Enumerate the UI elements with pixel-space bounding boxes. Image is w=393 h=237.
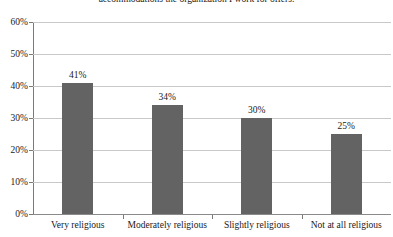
x-axis-label: Slightly religious <box>212 220 302 231</box>
y-axis-label: 20% <box>0 145 28 155</box>
x-axis-tick <box>123 215 124 219</box>
x-axis-label: Not at all religious <box>302 220 392 231</box>
bar <box>62 83 93 214</box>
bar-value-label: 41% <box>33 70 123 80</box>
y-axis-tick <box>29 214 33 215</box>
y-axis-label: 40% <box>0 81 28 91</box>
bar-value-label: 30% <box>212 105 302 115</box>
x-axis-label: Very religious <box>33 220 123 231</box>
bar-chart: accommodations the organization I work f… <box>0 0 393 237</box>
chart-title: accommodations the organization I work f… <box>0 0 393 5</box>
y-axis-label: 50% <box>0 49 28 59</box>
y-axis-label: 60% <box>0 17 28 27</box>
y-axis-label: 30% <box>0 113 28 123</box>
y-axis-label: 10% <box>0 177 28 187</box>
x-axis-tick <box>302 215 303 219</box>
plot-area <box>33 22 391 214</box>
x-axis-tick <box>212 215 213 219</box>
bar-value-label: 25% <box>302 121 392 131</box>
x-axis-label: Moderately religious <box>123 220 213 231</box>
bar <box>152 105 183 214</box>
bar <box>241 118 272 214</box>
bar <box>331 134 362 214</box>
y-axis-label: 0% <box>0 209 28 219</box>
bar-value-label: 34% <box>123 92 213 102</box>
